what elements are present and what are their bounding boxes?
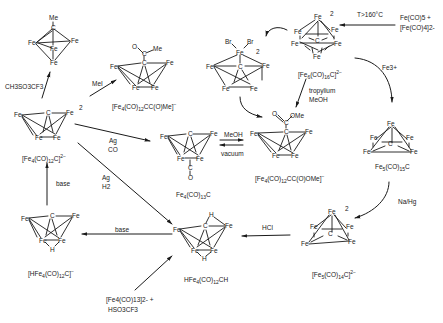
atom-label: Fe — [196, 155, 204, 163]
atom-label: C — [328, 230, 333, 238]
charge-label: 2 — [256, 48, 260, 56]
atom-label: Fe — [191, 247, 199, 255]
atom-label: Fe — [334, 40, 342, 48]
reaction-scheme: Me C Fe Fe Fe Fe O C Me C Fe Fe Fe Fe [F… — [0, 0, 443, 323]
atom-label: O — [272, 110, 277, 118]
reagent-base-up: base — [56, 180, 70, 188]
atom-label: Fe — [210, 247, 218, 255]
atom-label: Fe — [225, 222, 233, 230]
atom-label: H — [209, 211, 214, 219]
atom-label: Fe — [328, 208, 336, 216]
atom-label: Fe — [250, 130, 258, 138]
atom-label: Fe — [310, 223, 318, 231]
arrow-ag-h2 — [78, 143, 172, 224]
atom-label: OMe — [290, 112, 304, 120]
atom-label: C — [142, 59, 147, 67]
charge-label: 2 — [330, 10, 334, 18]
atom-label: Fe — [53, 134, 61, 142]
compound-ester-cluster — [258, 115, 305, 155]
atom-label: H — [50, 246, 55, 254]
atom-label: C — [188, 130, 193, 138]
compound-formula-fe5c14-dianion: [Fe5(CO)14C]2− — [312, 268, 356, 281]
reagent-tropylium: tropylium — [309, 87, 335, 95]
atom-label: Me — [153, 45, 162, 53]
atom-label: Fe — [272, 152, 280, 160]
charge-label: 2 — [79, 104, 83, 112]
atom-label: Br — [225, 38, 232, 46]
atom-label: Fe — [294, 28, 302, 36]
atom-label: Fe — [50, 45, 58, 53]
atom-label: Fe — [314, 13, 322, 21]
reagent-co: CO — [108, 146, 118, 154]
arrow-reduction — [355, 182, 389, 218]
reagent-methyl-triflate: CH3SO3CF3 — [5, 83, 43, 91]
atom-label: C — [51, 24, 56, 32]
reagent-meoh-2: MeOH — [309, 96, 328, 104]
arrow-hcl — [242, 235, 290, 236]
charge-label: 2 — [345, 205, 349, 213]
atom-label: Fe — [50, 59, 58, 67]
atom-label: Fe — [58, 237, 66, 245]
atom-label: Fe — [66, 109, 74, 117]
atom-label: Fe — [173, 226, 181, 234]
compound-formula-fe4c-dianion: [Fe4(CO)12C]2− — [22, 152, 66, 165]
atom-label: Fe — [151, 84, 159, 92]
atom-label: C — [238, 63, 243, 71]
reagent-base-left: base — [115, 226, 129, 234]
reagent-triflic-acid: HSO3CF3 — [108, 306, 138, 314]
atom-label: Fe — [301, 240, 309, 248]
reagent-mei: MeI — [92, 80, 103, 88]
reaction-arrows — [42, 25, 395, 290]
reagent-vacuum: vacuum — [221, 150, 244, 158]
atom-label: Fe — [110, 63, 118, 71]
reagent-h2: H2 — [102, 183, 110, 191]
atom-label: Fe — [39, 237, 47, 245]
atom-label: Me — [49, 14, 58, 22]
atom-label: Fe — [160, 133, 168, 141]
atom-label: Fe — [305, 128, 313, 136]
reagent-fe-co5: Fe(CO)5 + — [400, 14, 431, 22]
atom-label: Fe — [21, 215, 29, 223]
reagent-fe3: Fe3+ — [382, 64, 397, 72]
atom-label: Fe — [132, 84, 140, 92]
atom-label: Fe — [28, 39, 36, 47]
atom-label: C — [50, 212, 55, 220]
atom-label: Fe — [72, 212, 80, 220]
atom-label: Fe — [387, 120, 395, 128]
reagent-fe-co4-dianion: [Fe(CO)4]2- — [400, 24, 435, 32]
atom-label: Fe — [346, 223, 354, 231]
reagent-fe4co13-dianion: [Fe4(CO)13]2- + — [106, 296, 154, 304]
atom-label: Fe — [313, 53, 321, 61]
compound-formula-fe4co13c: Fe4(CO)13C — [176, 191, 211, 201]
atom-label: Fe — [236, 49, 244, 57]
atom-label: C — [284, 128, 289, 136]
reagent-na-hg: Na/Hg — [398, 198, 416, 206]
atom-label: Fe — [250, 85, 258, 93]
compound-formula-ester: [Fe4(CO)12CC(O)OMe]− — [255, 172, 324, 185]
atom-label: Br — [247, 38, 254, 46]
compound-formula-hfe4c-anion: [HFe4(CO)12C]− — [28, 267, 74, 280]
atom-label: C — [315, 37, 320, 45]
atom-label: H — [202, 255, 207, 263]
compound-formula-hfe4ch: HFe4(CO)12CH — [184, 276, 228, 286]
atom-label: Fe — [406, 134, 414, 142]
arrow-fe6-to-dibromo — [266, 28, 287, 36]
atom-label: C — [284, 119, 289, 127]
atom-label: Fe — [370, 134, 378, 142]
arrow-dibromo-to-ester — [240, 97, 262, 117]
atom-label: Fe — [410, 148, 418, 156]
atom-label: C — [203, 222, 208, 230]
reagent-hcl: HCl — [262, 224, 273, 232]
atom-label: C — [46, 109, 51, 117]
atom-label: Fe — [35, 134, 43, 142]
atom-label: O — [188, 174, 193, 182]
atom-label: Fe — [363, 148, 371, 156]
atom-label: C — [388, 140, 393, 148]
compound-formula-fe5c15: Fe5(CO)15C — [375, 163, 410, 173]
atom-label: C — [188, 164, 193, 172]
atom-label: Fe — [206, 63, 214, 71]
atom-label: Fe — [71, 37, 79, 45]
atom-label: O — [132, 43, 137, 51]
atom-label: Fe — [348, 238, 356, 246]
reagent-ag-2: Ag — [102, 174, 110, 182]
